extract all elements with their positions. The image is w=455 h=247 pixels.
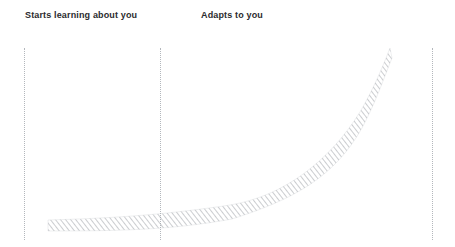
curve-band bbox=[0, 0, 455, 247]
growth-curve-chart bbox=[0, 0, 455, 247]
marker-line-phase-start bbox=[24, 48, 25, 240]
marker-line-phase-adapt bbox=[160, 48, 161, 240]
infographic-canvas: Starts learning about you Adapts to you bbox=[0, 0, 455, 247]
phase-label-adapts: Adapts to you bbox=[201, 11, 263, 20]
marker-line-phase-end bbox=[432, 48, 433, 240]
phase-label-starts-learning: Starts learning about you bbox=[25, 11, 137, 20]
